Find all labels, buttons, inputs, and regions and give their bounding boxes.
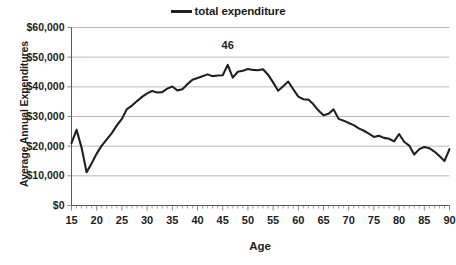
x-axis-ticks: 15202530354045505560657075808590 — [65, 206, 455, 226]
y-axis-tick-label: $60,000 — [27, 21, 65, 33]
annotation-peak-age: 46 — [222, 39, 234, 51]
x-axis-tick-label: 15 — [65, 214, 77, 226]
y-axis-ticks: $0$10,000$20,000$30,000$40,000$50,000$60… — [27, 21, 72, 211]
x-axis-tick-label: 50 — [242, 214, 254, 226]
x-axis-tick-label: 25 — [116, 214, 128, 226]
y-axis-tick-label: $20,000 — [27, 140, 65, 152]
chart-annotations: 46 — [222, 39, 234, 51]
y-axis-tick-label: $10,000 — [27, 169, 65, 181]
x-axis-tick-label: 35 — [166, 214, 178, 226]
y-axis-tick-label: $30,000 — [27, 110, 65, 122]
x-axis-tick-label: 30 — [141, 214, 153, 226]
gridlines — [72, 28, 450, 176]
x-axis-tick-label: 20 — [91, 214, 103, 226]
x-axis-tick-label: 60 — [292, 214, 304, 226]
chart-plot-area: $0$10,000$20,000$30,000$40,000$50,000$60… — [0, 0, 456, 265]
x-axis-tick-label: 45 — [217, 214, 229, 226]
x-axis-tick-label: 90 — [443, 214, 455, 226]
x-axis-tick-label: 40 — [191, 214, 203, 226]
y-axis-tick-label: $50,000 — [27, 51, 65, 63]
x-axis-tick-label: 65 — [317, 214, 329, 226]
data-series — [72, 65, 450, 172]
series-line-total-expenditure — [72, 65, 450, 172]
chart-container: total expenditure Average Annual Expendi… — [0, 0, 456, 265]
x-axis-tick-label: 85 — [418, 214, 430, 226]
x-axis-tick-label: 75 — [368, 214, 380, 226]
x-axis-tick-label: 55 — [267, 214, 279, 226]
y-axis-tick-label: $0 — [53, 199, 65, 211]
x-axis-tick-label: 70 — [343, 214, 355, 226]
y-axis-tick-label: $40,000 — [27, 80, 65, 92]
x-axis-tick-label: 80 — [393, 214, 405, 226]
